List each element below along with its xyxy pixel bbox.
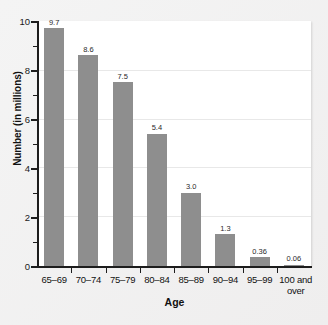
bar-slot-85-89: 3.0 [174, 21, 208, 266]
x-tick-4 [174, 267, 175, 273]
x-label-75-79: 75–79 [106, 274, 140, 285]
bar-value-80-84: 5.4 [152, 124, 162, 132]
bar-slot-70-74: 8.6 [71, 21, 105, 266]
x-tick-2 [106, 267, 107, 273]
x-axis-title: Age [37, 296, 312, 308]
bar-slot-100-and-over: 0.06 [277, 21, 311, 266]
x-tick-3 [140, 267, 141, 273]
bar-slot-80-84: 5.4 [140, 21, 174, 266]
y-axis-line [37, 21, 39, 267]
x-tick-6 [243, 267, 244, 273]
x-label-65-69: 65–69 [37, 274, 71, 285]
x-label-70-74: 70–74 [71, 274, 105, 285]
bar-95-99[interactable] [250, 257, 270, 266]
y-tick-minor-1 [33, 242, 37, 243]
y-tick-8 [31, 70, 37, 72]
x-label-85-89: 85–89 [174, 274, 208, 285]
y-tick-label-wrap-0: 0 [0, 262, 30, 272]
plot-area: 9.7 8.6 7.5 5.4 3.0 1.3 0.36 0.06 [37, 21, 311, 266]
y-tick-label-10: 10 [8, 17, 30, 27]
bar-chart-figure: 9.7 8.6 7.5 5.4 3.0 1.3 0.36 0.06 [0, 0, 328, 325]
bar-slot-90-94: 1.3 [208, 21, 242, 266]
bar-90-94[interactable] [215, 234, 235, 266]
bar-70-74[interactable] [78, 55, 98, 266]
x-label-90-94: 90–94 [208, 274, 242, 285]
x-label-100-and-over: 100 and over [277, 274, 315, 296]
y-tick-minor-9 [33, 46, 37, 47]
bar-75-79[interactable] [113, 82, 133, 266]
bar-80-84[interactable] [147, 134, 167, 266]
bar-value-100-and-over: 0.06 [287, 255, 302, 263]
x-tick-7 [277, 267, 278, 273]
bar-value-75-79: 7.5 [117, 73, 127, 81]
y-tick-4 [31, 168, 37, 170]
bar-value-65-69: 9.7 [49, 19, 59, 27]
bar-value-90-94: 1.3 [220, 225, 230, 233]
bar-slot-95-99: 0.36 [243, 21, 277, 266]
y-tick-10 [31, 21, 37, 23]
y-tick-2 [31, 217, 37, 219]
bar-value-85-89: 3.0 [186, 183, 196, 191]
y-axis-title: Number (in millions) [12, 54, 23, 184]
bar-value-95-99: 0.36 [252, 248, 267, 256]
bar-slot-65-69: 9.7 [37, 21, 71, 266]
y-tick-label-wrap-2: 2 [0, 213, 30, 223]
y-tick-label-wrap-10: 10 [0, 17, 30, 27]
y-tick-0 [31, 266, 37, 268]
y-tick-6 [31, 119, 37, 121]
x-tick-1 [71, 267, 72, 273]
bar-65-69[interactable] [44, 28, 64, 266]
bar-slot-75-79: 7.5 [106, 21, 140, 266]
x-label-95-99: 95–99 [243, 274, 277, 285]
y-tick-minor-3 [33, 193, 37, 194]
bar-85-89[interactable] [181, 193, 201, 267]
y-tick-minor-7 [33, 95, 37, 96]
y-tick-label-0: 0 [8, 262, 30, 272]
bar-value-70-74: 8.6 [83, 46, 93, 54]
y-tick-label-2: 2 [8, 213, 30, 223]
x-label-80-84: 80–84 [140, 274, 174, 285]
y-tick-minor-5 [33, 144, 37, 145]
x-tick-5 [208, 267, 209, 273]
